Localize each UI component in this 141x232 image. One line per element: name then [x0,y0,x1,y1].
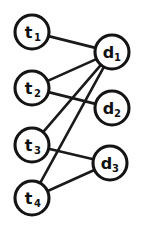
node-label-base: d [101,154,112,173]
graph-edge [48,36,97,48]
node-label-base: t [25,136,33,155]
bipartite-graph-diagram: t1t2t3t4d1d2d3 [0,0,141,232]
node-label-base: t [25,189,33,208]
graph-node: d3 [93,146,127,180]
node-label-subscript: 3 [34,145,41,156]
graph-node: t1 [15,15,49,49]
graph-node: d2 [95,91,129,125]
node-label-subscript: 2 [34,88,41,99]
node-label-subscript: 1 [114,52,121,63]
node-label-subscript: 1 [34,32,41,43]
node-label-subscript: 3 [112,163,119,174]
node-label-subscript: 4 [34,198,41,209]
graph-node: t4 [15,181,49,215]
graph-node: t2 [15,71,49,105]
node-label-base: d [103,99,114,118]
node-label-base: t [25,23,33,42]
nodes-layer: t1t2t3t4d1d2d3 [15,15,129,215]
node-label-base: t [25,79,33,98]
graph-edge [47,170,96,192]
node-label-subscript: 2 [114,108,121,119]
graph-node: d1 [95,35,129,69]
node-label-base: d [103,43,114,62]
graph-node: t3 [15,128,49,162]
